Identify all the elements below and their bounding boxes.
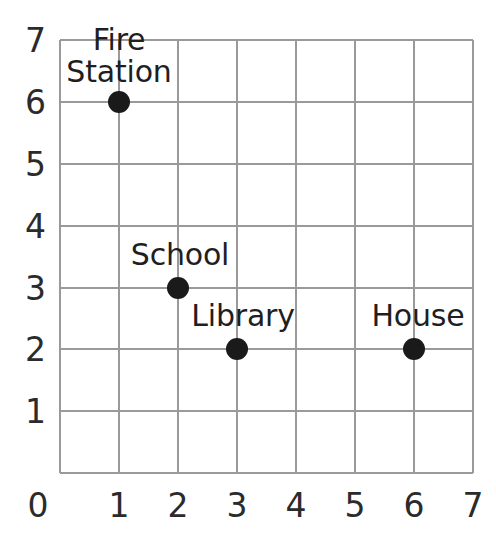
data-point-library[interactable]	[226, 338, 248, 360]
y-axis-tick-1: 1	[12, 395, 46, 428]
data-point-school[interactable]	[167, 277, 189, 299]
x-axis-tick-0: 0	[18, 489, 58, 522]
point-label-fire-station-line-1: Fire	[34, 24, 204, 56]
x-axis-tick-6: 6	[394, 489, 434, 522]
x-axis-tick-5: 5	[335, 489, 375, 522]
point-label-school: School	[110, 240, 250, 271]
x-axis-tick-7: 7	[453, 489, 493, 522]
x-axis-tick-4: 4	[276, 489, 316, 522]
y-axis-tick-3: 3	[12, 272, 46, 305]
point-label-fire-station: Fire Station	[34, 24, 204, 87]
x-axis-tick-3: 3	[217, 489, 257, 522]
x-axis-tick-2: 2	[158, 489, 198, 522]
point-label-library: Library	[173, 301, 313, 332]
point-label-house: House	[348, 301, 488, 332]
data-point-house[interactable]	[403, 338, 425, 360]
y-axis-tick-6: 6	[12, 86, 46, 119]
point-label-fire-station-line-2: Station	[34, 56, 204, 88]
x-axis-tick-1: 1	[99, 489, 139, 522]
y-axis-tick-5: 5	[12, 148, 46, 181]
data-point-fire-station[interactable]	[108, 91, 130, 113]
scatter-plot-figure: 7 6 5 4 3 2 1 0 1 2 3 4 5 6 7 Fire Stati…	[0, 0, 496, 538]
y-axis-tick-4: 4	[12, 210, 46, 243]
y-axis-tick-2: 2	[12, 333, 46, 366]
